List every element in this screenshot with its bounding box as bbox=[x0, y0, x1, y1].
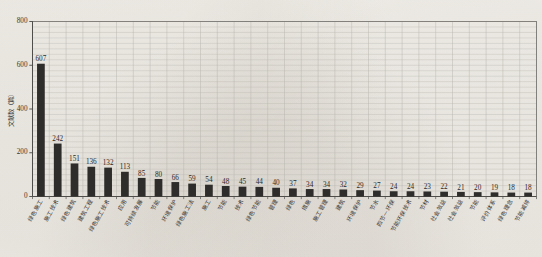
x-category-label: 绿色建筑 bbox=[59, 198, 78, 223]
bar-value-label: 40 bbox=[273, 179, 281, 187]
bar bbox=[255, 187, 263, 197]
x-category-label: 社会效益 bbox=[429, 198, 448, 223]
bar bbox=[171, 182, 179, 196]
bar-value-label: 37 bbox=[289, 180, 297, 188]
bar bbox=[121, 172, 129, 197]
bar-value-label: 21 bbox=[457, 184, 465, 192]
x-category-label: 施工 bbox=[199, 198, 212, 212]
x-category-label: 节能 bbox=[149, 198, 162, 212]
bar-value-label: 24 bbox=[407, 183, 415, 191]
bar-value-label: 45 bbox=[239, 178, 247, 186]
y-axis-title: 文献数（篇） bbox=[7, 91, 15, 127]
bar-value-label: 34 bbox=[306, 181, 314, 189]
bar bbox=[423, 191, 431, 196]
bar bbox=[306, 189, 314, 196]
bar-value-label: 18 bbox=[508, 184, 516, 192]
bar-value-label: 23 bbox=[424, 183, 432, 191]
bar-value-label: 113 bbox=[120, 163, 131, 171]
bar-value-label: 27 bbox=[373, 182, 381, 190]
bar-value-label: 85 bbox=[138, 170, 146, 178]
bar-value-label: 32 bbox=[340, 181, 348, 189]
bar-value-label: 607 bbox=[36, 55, 47, 63]
x-category-label: 施工技术 bbox=[42, 198, 61, 223]
bar-value-label: 66 bbox=[172, 174, 180, 182]
x-category-label: 施工管理 bbox=[311, 198, 330, 223]
x-category-label: 节水 bbox=[367, 198, 380, 212]
bar bbox=[407, 191, 415, 196]
x-category-label: 绿色施工 bbox=[25, 198, 44, 223]
category-labels-group: 绿色施工施工技术绿色建筑建筑工程绿色施工技术应用可持续发展节能环境保护绿色施工法… bbox=[25, 198, 531, 233]
x-category-label: 节能 bbox=[216, 198, 229, 212]
bar bbox=[440, 192, 448, 197]
bar bbox=[390, 191, 398, 196]
x-category-label: 建筑工程 bbox=[76, 198, 95, 223]
bar-value-label: 59 bbox=[189, 175, 197, 183]
x-category-label: 绿色理念 bbox=[496, 198, 514, 222]
scanned-chart-page: 6072421511361321138580665954484544403734… bbox=[0, 0, 542, 257]
bar bbox=[222, 186, 230, 197]
bar-value-label: 151 bbox=[69, 155, 80, 163]
bar-value-label: 132 bbox=[103, 159, 114, 167]
bar-value-label: 80 bbox=[155, 171, 163, 179]
bar-value-label: 19 bbox=[491, 184, 499, 192]
x-category-label: 社会效益 bbox=[445, 198, 464, 223]
bar bbox=[71, 163, 79, 196]
x-category-label: 措施 bbox=[300, 198, 313, 212]
bar bbox=[474, 192, 482, 196]
bar-value-label: 20 bbox=[474, 184, 482, 192]
bar-value-label: 18 bbox=[525, 184, 533, 192]
bar bbox=[54, 144, 62, 197]
bar-value-label: 29 bbox=[357, 182, 365, 190]
bar bbox=[37, 64, 45, 197]
x-category-label: 环境保护 bbox=[160, 198, 179, 223]
bar-value-label: 48 bbox=[222, 178, 230, 186]
y-tick-label: 800 bbox=[17, 17, 28, 25]
bar bbox=[188, 184, 196, 197]
bar bbox=[239, 187, 247, 197]
y-tick-label: 400 bbox=[17, 105, 28, 113]
bar bbox=[323, 189, 331, 196]
bar-value-label: 24 bbox=[390, 183, 398, 191]
bar bbox=[138, 178, 146, 197]
x-category-label: 评价体系 bbox=[479, 198, 498, 223]
bar-value-label: 44 bbox=[256, 178, 264, 186]
bar-value-label: 136 bbox=[86, 158, 97, 166]
bar bbox=[356, 190, 364, 196]
x-category-label: 环境保护 bbox=[345, 198, 364, 223]
x-category-label: 建筑 bbox=[334, 198, 347, 212]
bar bbox=[339, 190, 347, 197]
bar-value-label: 54 bbox=[205, 176, 213, 184]
bar bbox=[289, 188, 297, 196]
y-tick-label: 200 bbox=[17, 148, 28, 156]
bar-value-label: 34 bbox=[323, 181, 331, 189]
y-axis-title-group: 文献数（篇） bbox=[7, 91, 15, 127]
bar bbox=[524, 193, 532, 197]
bar bbox=[491, 192, 499, 196]
x-category-label: 绿色节能 bbox=[244, 198, 263, 223]
bar bbox=[373, 191, 381, 197]
bar-value-label: 242 bbox=[52, 135, 63, 143]
x-category-label: 节材 bbox=[418, 198, 431, 212]
y-tick-label: 0 bbox=[24, 192, 28, 200]
bar bbox=[104, 168, 112, 197]
x-category-label: 节能 bbox=[468, 198, 481, 212]
x-category-label: 管理 bbox=[267, 198, 280, 212]
bar-chart: 6072421511361321138580665954484544403734… bbox=[0, 0, 542, 257]
y-tick-label: 600 bbox=[17, 61, 28, 69]
bar bbox=[205, 185, 213, 197]
bar bbox=[155, 179, 163, 197]
x-category-label: 应用 bbox=[115, 198, 128, 212]
bar-value-label: 22 bbox=[441, 183, 449, 191]
x-category-label: 技术 bbox=[233, 198, 246, 212]
x-category-label: 绿色 bbox=[283, 198, 295, 212]
bar bbox=[87, 167, 95, 197]
bar bbox=[507, 193, 515, 197]
bar bbox=[457, 192, 465, 197]
x-category-label: 节能减排 bbox=[513, 198, 532, 223]
bar bbox=[272, 188, 280, 197]
